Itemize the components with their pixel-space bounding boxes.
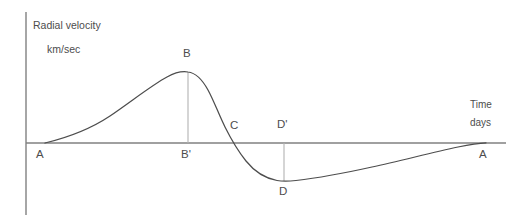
radial-velocity-curve xyxy=(45,72,486,182)
x-axis-units: days xyxy=(470,118,491,128)
point-label-c: C xyxy=(230,120,238,132)
y-axis-title: Radial velocity xyxy=(33,20,101,31)
point-label-d: D xyxy=(279,186,287,198)
point-label-a-end: A xyxy=(479,149,487,161)
point-label-d-prime: D' xyxy=(277,119,288,131)
point-label-a-start: A xyxy=(36,149,44,161)
chart-canvas xyxy=(0,0,528,221)
x-axis-title: Time xyxy=(470,100,492,110)
point-label-b: B xyxy=(183,48,191,60)
radial-velocity-chart: Radial velocity km/sec Time days A B B' … xyxy=(0,0,528,221)
point-label-b-prime: B' xyxy=(181,149,191,161)
y-axis-units: km/sec xyxy=(47,44,80,55)
